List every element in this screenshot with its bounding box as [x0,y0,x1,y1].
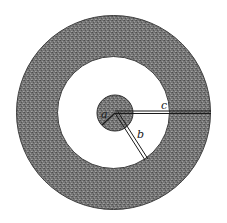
label-b: b [137,128,144,141]
concentric-spheres-diagram: a b c [0,0,227,223]
label-c: c [161,99,167,112]
label-a: a [101,108,108,121]
